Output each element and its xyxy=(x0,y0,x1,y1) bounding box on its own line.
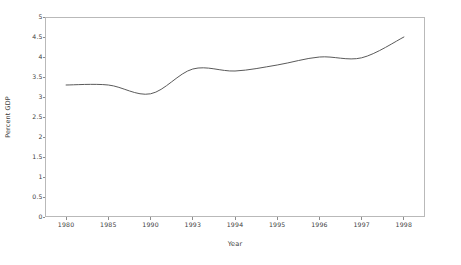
x-axis-tick-mark xyxy=(192,217,193,220)
x-axis-tick-label: 1980 xyxy=(58,222,75,228)
x-axis-tick-mark xyxy=(150,217,151,220)
x-axis-tick-mark xyxy=(319,217,320,220)
x-axis-tick-mark xyxy=(235,217,236,220)
x-axis-tick-label: 1994 xyxy=(227,222,244,228)
y-axis-tick-mark xyxy=(43,97,46,98)
x-axis-tick-label: 1990 xyxy=(142,222,159,228)
x-axis-tick-mark xyxy=(277,217,278,220)
y-axis-tick-mark xyxy=(43,37,46,38)
y-axis-tick-mark xyxy=(43,57,46,58)
x-axis-tick-mark xyxy=(403,217,404,220)
x-axis-tick-label: 1985 xyxy=(100,222,117,228)
y-axis-tick-mark xyxy=(43,77,46,78)
chart-figure: 00.511.522.533.544.55 198019851990199319… xyxy=(0,0,461,265)
x-axis-tick-mark xyxy=(361,217,362,220)
x-axis-title: Year xyxy=(228,241,243,248)
x-axis-tick-label: 1995 xyxy=(269,222,286,228)
data-series-line xyxy=(66,37,404,94)
x-axis-tick-label: 1996 xyxy=(311,222,328,228)
plot-line-layer xyxy=(45,17,425,217)
y-axis-tick-mark xyxy=(43,17,46,18)
y-axis-tick-mark xyxy=(43,157,46,158)
y-axis-tick-mark xyxy=(43,197,46,198)
y-axis-title: Percent GDP xyxy=(5,96,11,137)
x-axis-tick-label: 1998 xyxy=(396,222,413,228)
x-axis-tick-label: 1997 xyxy=(353,222,370,228)
y-axis-tick-mark xyxy=(43,137,46,138)
y-axis-tick-mark xyxy=(43,177,46,178)
y-axis-tick-mark xyxy=(43,117,46,118)
x-axis-tick-mark xyxy=(66,217,67,220)
x-axis-tick-mark xyxy=(108,217,109,220)
y-axis-tick-mark xyxy=(43,217,46,218)
x-axis-tick-label: 1993 xyxy=(184,222,201,228)
